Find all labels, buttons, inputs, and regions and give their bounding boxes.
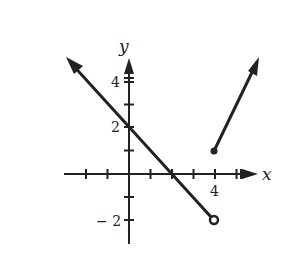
piecewise-graph: x 4 y 4 2 − 2 xyxy=(0,0,292,264)
y-axis-label: y xyxy=(118,36,129,56)
y-axis-arrow-icon xyxy=(124,58,134,74)
y-tick-label-2: 2 xyxy=(111,119,120,135)
open-circle-endpoint xyxy=(210,216,218,224)
x-axis-label: x xyxy=(262,164,272,184)
x-tick-label-4: 4 xyxy=(210,183,219,199)
series-piece-left xyxy=(66,57,218,224)
y-tick-label-neg2: − 2 xyxy=(96,213,121,229)
closed-dot-endpoint xyxy=(211,148,218,155)
y-tick-label-4: 4 xyxy=(111,74,120,90)
right-piece-arrow-icon xyxy=(248,57,259,76)
x-axis-arrow-icon xyxy=(242,169,258,179)
y-axis: y 4 2 − 2 xyxy=(96,36,134,244)
series-piece-right xyxy=(211,57,260,155)
